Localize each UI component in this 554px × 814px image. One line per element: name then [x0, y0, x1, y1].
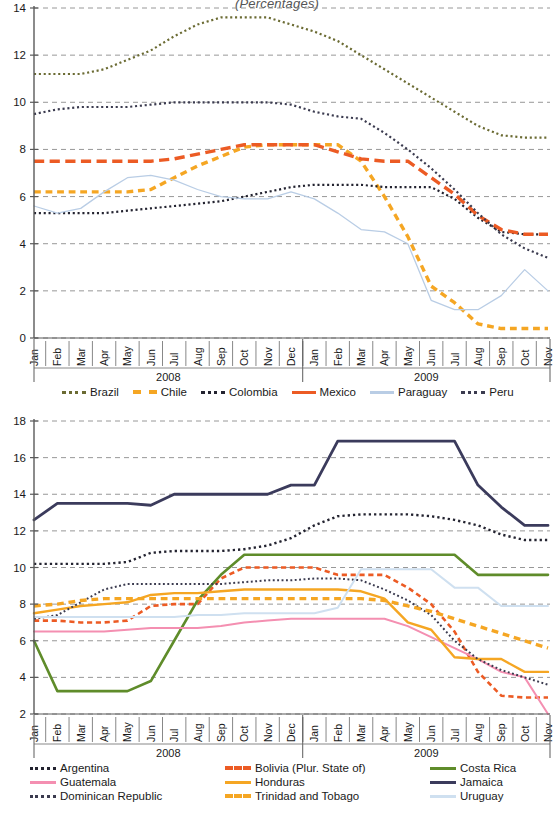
- x-axis-month-label: Nov: [542, 723, 554, 742]
- series-line-peru: [34, 102, 548, 258]
- x-axis-month-label: Dec: [285, 347, 297, 366]
- legend-swatch-icon: [201, 391, 225, 394]
- chart-page: (Percentages) 02468101214JanFebMarAprMay…: [0, 0, 554, 814]
- x-axis-month-label: Dec: [285, 723, 297, 742]
- y-axis-tick-label: 14: [13, 2, 26, 14]
- legend-label: Mexico: [320, 386, 356, 398]
- y-axis-tick-label: 0: [20, 332, 26, 344]
- x-axis-month-label: Oct: [519, 726, 531, 742]
- x-axis-month-label: Jun: [425, 725, 437, 742]
- legend-label: Uruguay: [460, 790, 503, 802]
- legend-swatch-icon: [225, 766, 251, 770]
- x-axis-month-label: Oct: [238, 350, 250, 366]
- legend-swatch-icon: [30, 781, 56, 784]
- y-axis-tick-label: 10: [13, 96, 26, 108]
- x-axis-month-label: Jan: [308, 349, 320, 366]
- x-axis-month-label: Jul: [168, 729, 180, 742]
- x-axis-month-label: Aug: [472, 347, 484, 366]
- legend-swatch-icon: [430, 781, 456, 784]
- x-axis-month-label: Feb: [332, 348, 344, 366]
- line-chart-2: 24681012141618JanFebMarAprMayJunJulAugSe…: [0, 415, 554, 762]
- legend-item-trinidad-and-tobago[interactable]: Trinidad and Tobago: [225, 790, 430, 802]
- x-axis-month-label: Feb: [51, 724, 63, 742]
- x-axis-month-label: Jul: [449, 353, 461, 366]
- series-line-brazil: [34, 17, 548, 137]
- legend-item-jamaica[interactable]: Jamaica: [430, 776, 554, 788]
- legend-item-paraguay[interactable]: Paraguay: [370, 386, 447, 398]
- legend-item-peru[interactable]: Peru: [461, 386, 513, 398]
- series-line-chile: [34, 145, 548, 329]
- x-axis-month-label: Jun: [425, 349, 437, 366]
- x-axis-month-label: Sep: [215, 723, 227, 742]
- y-axis-tick-label: 8: [20, 143, 26, 155]
- x-axis-year-label-2008: 2008: [156, 747, 180, 759]
- y-axis-tick-label: 12: [13, 525, 26, 537]
- legend-item-chile[interactable]: Chile: [133, 386, 187, 398]
- x-axis-month-label: Apr: [378, 725, 390, 742]
- y-axis-tick-label: 8: [20, 598, 26, 610]
- x-axis-month-label: Feb: [51, 348, 63, 366]
- legend-item-honduras[interactable]: Honduras: [225, 776, 430, 788]
- legend-label: Peru: [489, 386, 513, 398]
- x-axis-month-label: Mar: [75, 347, 87, 366]
- x-axis-month-label: Mar: [355, 347, 367, 366]
- x-axis-year-label-2009: 2009: [414, 747, 438, 759]
- series-line-guatemala: [34, 619, 548, 714]
- legend-label: Chile: [161, 386, 187, 398]
- legend-label: Brazil: [90, 386, 119, 398]
- x-axis-month-label: May: [402, 721, 414, 742]
- legend-swatch-icon: [30, 795, 56, 798]
- legend-label: Bolivia (Plur. State of): [255, 762, 366, 774]
- legend-item-dominican-republic[interactable]: Dominican Republic: [30, 790, 225, 802]
- legend-item-guatemala[interactable]: Guatemala: [30, 776, 225, 788]
- legend-label: Dominican Republic: [60, 790, 162, 802]
- legend-item-argentina[interactable]: Argentina: [30, 762, 225, 774]
- x-axis-month-label: Mar: [355, 723, 367, 742]
- x-axis-month-label: Feb: [332, 724, 344, 742]
- x-axis-month-label: May: [121, 721, 133, 742]
- chart-panel-unemployment-south-america: 02468101214JanFebMarAprMayJunJulAugSepOc…: [0, 0, 554, 400]
- legend-label: Trinidad and Tobago: [255, 790, 359, 802]
- plot-area-2: 24681012141618JanFebMarAprMayJunJulAugSe…: [0, 415, 554, 762]
- legend-swatch-icon: [133, 390, 157, 394]
- x-axis-year-label-2009: 2009: [414, 371, 438, 383]
- legend-swatch-icon: [430, 767, 456, 770]
- y-axis-tick-label: 16: [13, 452, 26, 464]
- legend-item-bolivia-plur-state-of[interactable]: Bolivia (Plur. State of): [225, 762, 430, 774]
- legend-label: Colombia: [229, 386, 278, 398]
- legend-item-brazil[interactable]: Brazil: [62, 386, 119, 398]
- legend-item-costa-rica[interactable]: Costa Rica: [430, 762, 554, 774]
- legend-item-uruguay[interactable]: Uruguay: [430, 790, 554, 802]
- line-chart-1: 02468101214JanFebMarAprMayJunJulAugSepOc…: [0, 0, 554, 386]
- x-axis-month-label: Nov: [262, 347, 274, 366]
- x-axis-month-label: Apr: [98, 725, 110, 742]
- x-axis-month-label: Apr: [378, 349, 390, 366]
- legend-item-colombia[interactable]: Colombia: [201, 386, 278, 398]
- x-axis-month-label: Sep: [495, 723, 507, 742]
- x-axis-month-label: Jul: [168, 353, 180, 366]
- x-axis-month-label: Jun: [145, 725, 157, 742]
- y-axis-tick-label: 14: [13, 488, 26, 500]
- y-axis-tick-label: 10: [13, 562, 26, 574]
- x-axis-month-label: Jul: [449, 729, 461, 742]
- legend-item-mexico[interactable]: Mexico: [292, 386, 356, 398]
- legend-swatch-icon: [30, 767, 56, 770]
- x-axis-month-label: May: [402, 345, 414, 366]
- x-axis-month-label: Sep: [215, 347, 227, 366]
- legend-swatch-icon: [461, 391, 485, 394]
- x-axis-month-label: Jun: [145, 349, 157, 366]
- legend-swatch-icon: [370, 391, 394, 394]
- y-axis-tick-label: 2: [20, 285, 26, 297]
- legend-swatch-icon: [225, 781, 251, 784]
- legend-label: Jamaica: [460, 776, 503, 788]
- legend-chart-1: BrazilChileColombiaMexicoParaguayPeru: [0, 386, 554, 398]
- y-axis-tick-label: 18: [13, 415, 26, 427]
- x-axis-month-label: Oct: [519, 350, 531, 366]
- x-axis-month-label: Nov: [262, 723, 274, 742]
- legend-label: Argentina: [60, 762, 109, 774]
- x-axis-month-label: Apr: [98, 349, 110, 366]
- legend-swatch-icon: [225, 794, 251, 798]
- series-line-mexico: [34, 145, 548, 235]
- legend-label: Guatemala: [60, 776, 116, 788]
- x-axis-month-label: Sep: [495, 347, 507, 366]
